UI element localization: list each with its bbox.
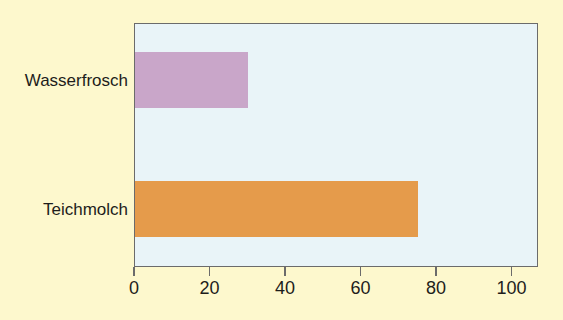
category-label-wasserfrosch: Wasserfrosch xyxy=(0,72,128,89)
x-tick-label: 0 xyxy=(129,279,139,297)
bar-teichmolch xyxy=(135,181,418,237)
x-tick-mark xyxy=(360,267,362,276)
x-tick-label: 40 xyxy=(275,279,295,297)
plot-area xyxy=(134,23,538,267)
x-tick-mark xyxy=(435,267,437,276)
category-axis-labels: Wasserfrosch Teichmolch xyxy=(0,0,128,320)
bar-wasserfrosch xyxy=(135,52,248,108)
x-tick-label: 20 xyxy=(199,279,219,297)
plot-inner xyxy=(135,24,537,266)
bar-chart: Wasserfrosch Teichmolch 020406080100 xyxy=(0,0,563,320)
x-tick-mark xyxy=(209,267,211,276)
category-label-teichmolch: Teichmolch xyxy=(0,201,128,218)
x-tick-mark xyxy=(133,267,135,276)
x-tick-mark xyxy=(511,267,513,276)
x-tick-label: 100 xyxy=(497,279,527,297)
x-tick-mark xyxy=(284,267,286,276)
x-tick-label: 80 xyxy=(426,279,446,297)
x-tick-label: 60 xyxy=(351,279,371,297)
